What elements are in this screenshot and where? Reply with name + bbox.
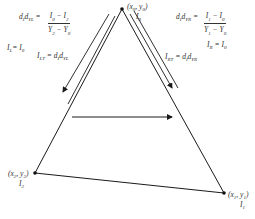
vertex-left-intensity: I2 [19, 180, 24, 189]
triangle-edges [35, 9, 224, 193]
edge-bottom [35, 173, 224, 193]
vertex-left-coord: (x2, y2) [8, 170, 28, 179]
right-init: IR = I0 [207, 41, 226, 50]
left-step: ILT = dIdYL [37, 52, 69, 61]
right-gradient-fraction: I1 − I0 Y1 − Y0 [204, 12, 226, 35]
right-gradient-lhs: dIdYR = [176, 13, 198, 22]
right-edge-arrow [130, 11, 178, 88]
left-gradient-lhs: dIdYL = [19, 13, 41, 22]
vertex-top-coord: (x0, y0) [127, 3, 147, 12]
edge-top-right [122, 9, 224, 193]
left-gradient-fraction: I0 − I2 Y2 − Y0 [48, 12, 70, 35]
left-init: IL= I0 [7, 44, 24, 53]
vertex-right-intensity: I1 [240, 201, 245, 210]
vertex-top-intensity: I0 [136, 13, 141, 22]
right-step: IRT = dIdYR [165, 53, 197, 62]
vertex-left-dot [33, 171, 37, 175]
vertex-right-coord: (x1, y1) [228, 191, 248, 200]
vertex-top-dot [120, 7, 124, 11]
vertex-right-dot [222, 191, 226, 195]
left-edge-arrow [63, 14, 115, 104]
